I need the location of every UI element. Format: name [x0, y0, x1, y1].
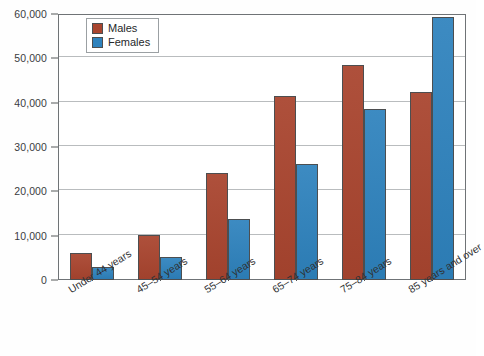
gridline	[59, 101, 465, 102]
gridline	[59, 234, 465, 235]
y-tick-mark	[51, 58, 58, 59]
y-tick-mark	[51, 147, 58, 148]
gridline	[59, 56, 465, 57]
females-swatch-icon	[92, 37, 103, 48]
y-tick-mark	[51, 102, 58, 103]
legend-label-females: Females	[108, 36, 150, 48]
y-tick-mark	[51, 280, 58, 281]
y-tick-label: 60,000	[14, 8, 47, 20]
y-tick-mark	[51, 14, 58, 15]
legend-label-males: Males	[108, 22, 137, 34]
y-tick-mark	[51, 235, 58, 236]
y-tick-label: 50,000	[14, 52, 47, 64]
y-tick-label: 20,000	[14, 185, 47, 197]
y-tick-label: 40,000	[14, 97, 47, 109]
legend-item-females: Females	[92, 36, 150, 48]
y-tick-label: 10,000	[14, 230, 47, 242]
x-axis: Under 44 years45–54 years55–64 years65–7…	[58, 281, 466, 355]
gridline	[59, 189, 465, 190]
y-axis: 010,00020,00030,00040,00050,00060,000	[0, 14, 58, 280]
chart-legend: Males Females	[86, 18, 159, 53]
plot-area	[58, 14, 466, 280]
males-swatch-icon	[92, 23, 103, 34]
y-tick-label: 30,000	[14, 141, 47, 153]
y-tick-label: 0	[41, 274, 47, 286]
gridline	[59, 145, 465, 146]
y-tick-mark	[51, 191, 58, 192]
legend-item-males: Males	[92, 22, 150, 34]
